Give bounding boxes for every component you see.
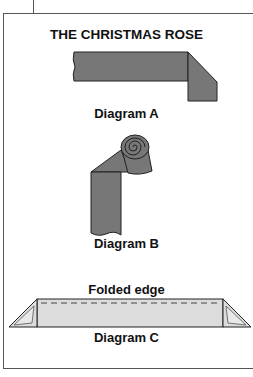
diagram-c-label: Diagram C: [0, 330, 253, 345]
diagram-a-label: Diagram A: [0, 106, 253, 121]
diagram-c-annotation: Folded edge: [0, 282, 253, 297]
diagram-c-folded-strip: [9, 299, 251, 327]
diagram-a-ribbon-fold: [73, 52, 217, 101]
diagram-b-rolled-ribbon: [91, 135, 152, 235]
diagram-b-label: Diagram B: [0, 236, 253, 251]
diagram-illustrations: [0, 0, 253, 377]
